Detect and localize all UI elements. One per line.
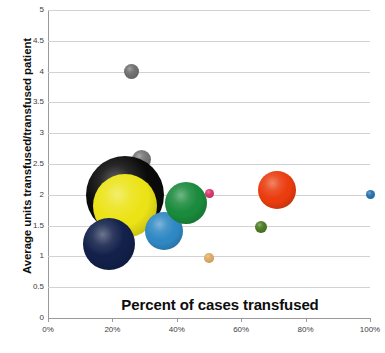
gridline [48, 41, 370, 42]
gridline [48, 10, 370, 11]
x-tick-mark [177, 318, 178, 322]
x-tick-mark [48, 318, 49, 322]
x-tick-label: 100% [350, 325, 385, 334]
bubble-blue-small[interactable] [366, 190, 375, 199]
gridline [48, 133, 370, 134]
x-tick-mark [241, 318, 242, 322]
gridline [48, 164, 370, 165]
y-tick-label: 2 [14, 191, 44, 199]
x-tick-label: 20% [92, 325, 132, 334]
bubble-chart: Average units transfused/transfused pati… [0, 0, 385, 353]
bubble-tan-small[interactable] [204, 253, 214, 263]
y-tick-label: 0 [14, 314, 44, 322]
gridline [48, 72, 370, 73]
y-tick-label: 0.5 [14, 283, 44, 291]
y-tick-label: 4 [14, 68, 44, 76]
x-tick-label: 40% [157, 325, 197, 334]
y-tick-label: 5 [14, 6, 44, 14]
x-tick-mark [112, 318, 113, 322]
gridline [48, 287, 370, 288]
x-tick-label: 60% [221, 325, 261, 334]
y-tick-label: 3.5 [14, 98, 44, 106]
x-tick-label: 0% [28, 325, 68, 334]
y-tick-label: 2.5 [14, 160, 44, 168]
x-tick-mark [306, 318, 307, 322]
bubble-darkgreen-s[interactable] [255, 221, 267, 233]
bubble-orangered[interactable] [258, 171, 296, 209]
y-tick-label: 1 [14, 252, 44, 260]
x-tick-mark [370, 318, 371, 322]
y-axis-title: Average units transfused/transfused pati… [18, 1, 36, 311]
y-tick-label: 3 [14, 129, 44, 137]
x-tick-label: 80% [286, 325, 326, 334]
bubble-navy-large[interactable] [83, 218, 135, 270]
gridline [48, 102, 370, 103]
bubble-pink-small[interactable] [205, 189, 214, 198]
y-tick-label: 1.5 [14, 222, 44, 230]
y-tick-label: 4.5 [14, 37, 44, 45]
